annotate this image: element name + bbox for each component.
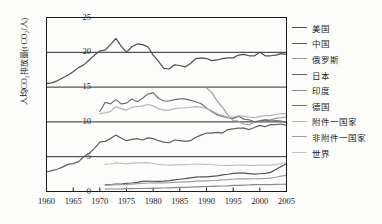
- y-axis-title: 人均CO₂排放量(t CO₂/人): [18, 0, 29, 137]
- legend-line-icon: [292, 90, 307, 91]
- x-tick-label: 2000: [251, 196, 268, 206]
- plot-svg: [46, 17, 287, 192]
- chart-legend: 美国中国俄罗斯日本印度德国附件一国家非附件一国家世界: [292, 20, 382, 160]
- legend-item-label: 附件一国家: [312, 115, 357, 127]
- legend-item-4[interactable]: 印度: [292, 82, 382, 98]
- y-axis-title-text: 人均CO₂排放量(t CO₂/人): [20, 18, 29, 106]
- x-tick-label: 1970: [91, 196, 108, 206]
- legend-item-6[interactable]: 附件一国家: [292, 114, 382, 130]
- x-tick-label: 1980: [145, 196, 162, 206]
- legend-item-5[interactable]: 德国: [292, 98, 382, 114]
- legend-item-label: 非附件一国家: [312, 131, 366, 143]
- legend-item-8[interactable]: 世界: [292, 145, 382, 161]
- legend-line-icon: [292, 43, 307, 44]
- series-line-5: [100, 93, 287, 123]
- legend-item-0[interactable]: 美国: [292, 20, 382, 36]
- x-tick-label: 1985: [171, 196, 188, 206]
- gridlines: [47, 52, 287, 156]
- legend-item-1[interactable]: 中国: [292, 36, 382, 52]
- legend-item-label: 俄罗斯: [312, 53, 339, 65]
- legend-line-icon: [292, 105, 307, 106]
- legend-line-icon: [292, 58, 307, 59]
- series-line-0: [47, 38, 287, 83]
- series-line-8: [105, 163, 286, 166]
- x-tick-label: 1995: [225, 196, 242, 206]
- x-tick-label: 2005: [278, 196, 295, 206]
- x-tick-label: 1975: [118, 196, 135, 206]
- legend-item-7[interactable]: 非附件一国家: [292, 129, 382, 145]
- legend-line-icon: [292, 136, 307, 137]
- legend-item-label: 德国: [312, 100, 330, 112]
- plot-area: [46, 17, 287, 192]
- legend-item-2[interactable]: 俄罗斯: [292, 51, 382, 67]
- legend-line-icon: [292, 27, 307, 28]
- series-line-4: [105, 184, 286, 189]
- x-axis-tick-labels: 1960196519701975198019851990199520002005: [46, 196, 287, 212]
- legend-line-icon: [292, 152, 307, 153]
- legend-item-label: 日本: [312, 69, 330, 81]
- x-tick-label: 1960: [38, 196, 55, 206]
- chart-figure: 人均CO₂排放量(t CO₂/人) 0510152025 19601965197…: [0, 0, 382, 224]
- legend-item-label: 中国: [312, 37, 330, 49]
- legend-line-icon: [292, 121, 307, 122]
- legend-item-3[interactable]: 日本: [292, 67, 382, 83]
- legend-item-label: 美国: [312, 22, 330, 34]
- legend-line-icon: [292, 74, 307, 75]
- legend-item-label: 世界: [312, 147, 330, 159]
- legend-item-label: 印度: [312, 84, 330, 96]
- x-tick-label: 1965: [65, 196, 82, 206]
- data-series: [47, 38, 287, 189]
- series-line-6: [100, 105, 287, 118]
- x-tick-label: 1990: [198, 196, 215, 206]
